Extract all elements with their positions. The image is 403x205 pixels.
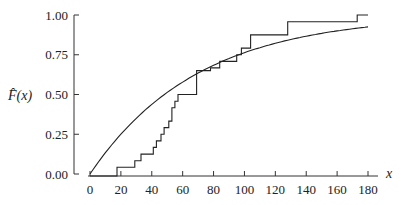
y-tick-label: 1.00 [45, 8, 68, 23]
empirical-cdf-steps [90, 15, 368, 176]
x-axis-ticks: 020406080100120140160180 [87, 171, 378, 197]
cdf-chart: 0.000.250.500.751.00 0204060801001201401… [0, 0, 403, 205]
y-tick-label: 0.25 [45, 127, 68, 142]
y-tick-label: 0.75 [45, 47, 68, 62]
x-tick-label: 120 [266, 182, 286, 197]
x-tick-label: 80 [207, 182, 220, 197]
y-axis-label: F̂(x) [7, 88, 32, 104]
x-tick-label: 140 [296, 182, 316, 197]
x-tick-label: 60 [176, 182, 189, 197]
x-tick-label: 160 [327, 182, 347, 197]
x-tick-label: 100 [235, 182, 255, 197]
y-tick-label: 0.50 [45, 87, 68, 102]
x-tick-label: 180 [358, 182, 378, 197]
x-tick-label: 40 [145, 182, 158, 197]
axes [74, 15, 378, 176]
y-tick-label: 0.00 [45, 167, 68, 182]
x-axis-label: x [385, 166, 393, 181]
fitted-cdf-curve [90, 27, 368, 174]
x-tick-label: 0 [87, 182, 94, 197]
x-tick-label: 20 [114, 182, 127, 197]
